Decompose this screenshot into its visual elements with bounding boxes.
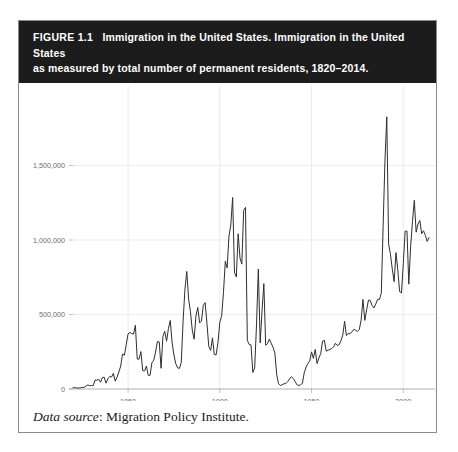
y-tick-label: 1,500,000 — [33, 161, 65, 170]
figure-panel: FIGURE 1.1 Immigration in the United Sta… — [18, 20, 437, 433]
figure-number: FIGURE 1.1 — [33, 31, 93, 43]
y-tick-label: 500,000 — [39, 310, 65, 319]
gridlines-group — [73, 85, 435, 389]
x-tick-label: 2000 — [395, 397, 411, 401]
figure-caption: Data source: Migration Policy Institute. — [33, 409, 249, 425]
figure-header: FIGURE 1.1 Immigration in the United Sta… — [19, 21, 436, 83]
x-tick-label: 1850 — [120, 397, 136, 401]
y-axis-ticks-group: 0500,0001,000,0001,500,000 — [33, 161, 73, 394]
figure-title-line2: as measured by total number of permanent… — [33, 61, 422, 77]
figure-header-line1: FIGURE 1.1 Immigration in the United Sta… — [33, 30, 422, 61]
y-tick-label: 1,000,000 — [33, 236, 65, 245]
immigration-series-line — [73, 117, 429, 388]
y-tick-label: 0 — [61, 385, 65, 394]
x-tick-label: 1950 — [304, 397, 320, 401]
immigration-line-chart: 1850190019502000 0500,0001,000,0001,500,… — [19, 83, 438, 401]
x-axis-ticks-group: 1850190019502000 — [120, 389, 411, 401]
caption-source-value: : Migration Policy Institute. — [99, 409, 249, 424]
caption-source-label: Data source — [33, 409, 99, 424]
chart-plot-area: 1850190019502000 0500,0001,000,0001,500,… — [19, 83, 438, 401]
x-tick-label: 1900 — [212, 397, 228, 401]
